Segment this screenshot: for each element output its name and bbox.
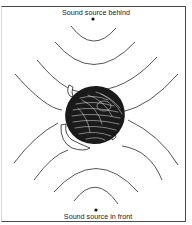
wave-behind-4-left (15, 74, 62, 110)
wave-front-3-right (122, 146, 162, 180)
sound-localization-diagram (0, 0, 192, 225)
wave-front-4-left (14, 123, 58, 163)
wave-behind-1 (71, 26, 116, 41)
wave-front-2 (54, 169, 138, 193)
source-behind-dot (91, 17, 94, 20)
wave-front-4-right (128, 120, 178, 165)
wave-front-1 (74, 187, 118, 204)
wave-behind-2 (55, 42, 135, 65)
source-front-dot (94, 208, 97, 211)
head-top-view (57, 77, 133, 152)
left-ear-icon (68, 85, 73, 97)
wave-front-3-left (34, 150, 68, 180)
